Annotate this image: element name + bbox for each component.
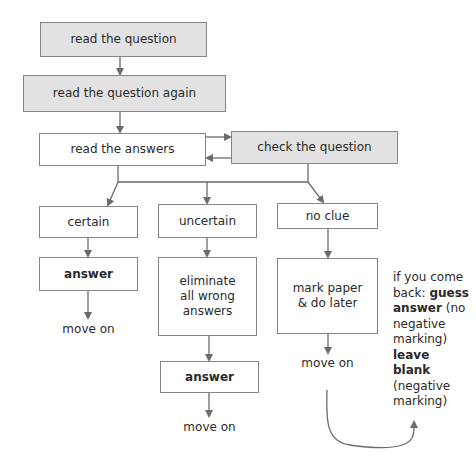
- come-back-note: if you come back: guess answer (no negat…: [393, 270, 475, 410]
- mark-paper-box: mark paper & do later: [277, 258, 378, 334]
- uncertain-move-on: move on: [160, 420, 259, 434]
- branch-no-clue-label: no clue: [306, 209, 350, 224]
- step-read-answers: read the answers: [39, 133, 206, 166]
- eliminate-wrong-answers-box: eliminate all wrong answers: [158, 257, 257, 336]
- note-leave-blank: leave blank: [393, 348, 443, 379]
- branch-no-clue: no clue: [277, 203, 378, 229]
- step-read-question-again-label: read the question again: [53, 86, 196, 101]
- mark-paper-label: mark paper & do later: [292, 281, 363, 311]
- branch-certain-label: certain: [68, 215, 110, 230]
- uncertain-answer-box: answer: [160, 361, 259, 393]
- certain-move-on: move on: [39, 322, 138, 336]
- step-check-question-label: check the question: [257, 140, 371, 155]
- certain-answer-box: answer: [39, 257, 138, 291]
- step-check-question: check the question: [231, 131, 398, 164]
- step-read-question-again: read the question again: [23, 75, 226, 112]
- step-read-answers-label: read the answers: [71, 142, 175, 157]
- note-leave-detail: (negative marking): [393, 379, 450, 409]
- certain-answer-label: answer: [64, 267, 113, 282]
- branch-uncertain-label: uncertain: [179, 214, 236, 229]
- step-read-question: read the question: [40, 22, 207, 57]
- uncertain-answer-label: answer: [185, 370, 234, 385]
- eliminate-wrong-answers-label: eliminate all wrong answers: [173, 274, 242, 319]
- branch-uncertain: uncertain: [158, 204, 257, 238]
- no-clue-move-on: move on: [277, 356, 378, 370]
- branch-certain: certain: [39, 206, 138, 238]
- step-read-question-label: read the question: [70, 32, 176, 47]
